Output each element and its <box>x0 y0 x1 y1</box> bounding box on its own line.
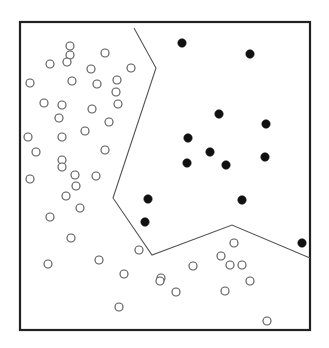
data-point-open <box>115 303 123 311</box>
data-point-open <box>114 100 122 108</box>
data-point-open <box>81 127 89 135</box>
data-point-open <box>92 172 100 180</box>
data-point-open <box>87 65 95 73</box>
data-point-open <box>135 246 143 254</box>
data-point-filled <box>262 120 270 128</box>
data-point-open <box>172 288 180 296</box>
data-point-open <box>230 239 238 247</box>
data-point-open <box>32 148 40 156</box>
data-point-open <box>46 60 54 68</box>
data-point-open <box>44 260 52 268</box>
data-point-filled <box>246 50 254 58</box>
data-point-open <box>156 277 164 285</box>
data-point-open <box>101 49 109 57</box>
data-point-open <box>58 163 66 171</box>
data-point-open <box>62 192 70 200</box>
data-point-filled <box>183 159 191 167</box>
data-point-filled <box>144 195 152 203</box>
data-point-open <box>93 80 101 88</box>
data-point-filled <box>206 148 214 156</box>
data-point-open <box>68 77 76 85</box>
data-point-open <box>40 99 48 107</box>
data-point-open <box>113 76 121 84</box>
data-point-open <box>71 171 79 179</box>
data-point-filled <box>215 110 223 118</box>
data-point-filled <box>178 39 186 47</box>
data-point-open <box>26 175 34 183</box>
data-point-open <box>101 146 109 154</box>
data-point-open <box>226 261 234 269</box>
data-point-open <box>76 204 84 212</box>
data-point-open <box>112 88 120 96</box>
data-point-open <box>238 261 246 269</box>
data-point-open <box>88 105 96 113</box>
data-point-open <box>263 317 271 325</box>
data-point-filled <box>222 161 230 169</box>
data-point-filled <box>261 153 269 161</box>
data-point-open <box>95 256 103 264</box>
data-point-filled <box>298 239 306 247</box>
data-point-open <box>105 118 113 126</box>
data-point-open <box>55 114 63 122</box>
data-point-filled <box>141 218 149 226</box>
data-point-filled <box>238 196 246 204</box>
data-point-open <box>246 277 254 285</box>
data-point-open <box>63 58 71 66</box>
data-point-open <box>221 287 229 295</box>
data-point-open <box>58 101 66 109</box>
data-point-filled <box>184 134 192 142</box>
data-point-open <box>24 133 32 141</box>
data-point-open <box>66 42 74 50</box>
data-point-open <box>127 64 135 72</box>
scatter-plot-figure <box>0 0 329 348</box>
data-point-open <box>26 79 34 87</box>
data-point-open <box>58 133 66 141</box>
data-point-open <box>120 270 128 278</box>
data-point-open <box>72 182 80 190</box>
plot-frame-border <box>20 22 310 330</box>
data-point-open <box>189 262 197 270</box>
data-point-open <box>46 213 54 221</box>
plot-canvas <box>0 0 329 348</box>
data-point-open <box>217 252 225 260</box>
data-point-open <box>67 234 75 242</box>
